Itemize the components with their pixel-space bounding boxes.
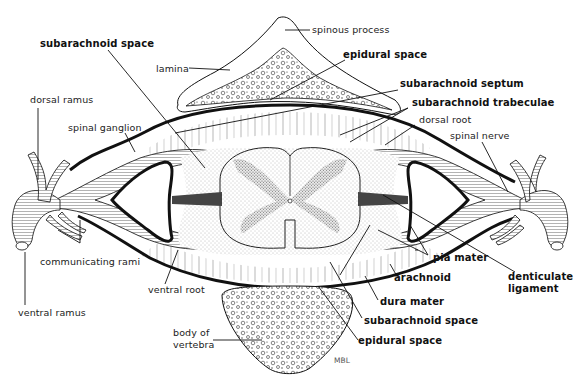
denticulate-ligament-right <box>358 192 408 206</box>
label-body-of-vertebra-line1: body of <box>173 327 209 338</box>
label-lamina: lamina <box>156 63 189 74</box>
label-spinal-ganglion: spinal ganglion <box>68 122 142 133</box>
label-epidural-space-bottom: epidural space <box>358 335 442 346</box>
label-subarachnoid-space-bottom: subarachnoid space <box>364 315 478 326</box>
label-subarachnoid-space-top: subarachnoid space <box>40 38 154 49</box>
label-subarachnoid-septum: subarachnoid septum <box>400 78 524 89</box>
label-dura-mater: dura mater <box>380 296 444 307</box>
label-dorsal-ramus: dorsal ramus <box>30 94 93 105</box>
label-pia-mater: pia mater <box>433 252 488 263</box>
label-arachnoid: arachnoid <box>394 272 451 283</box>
label-body-of-vertebra-line2: vertebra <box>173 339 215 350</box>
denticulate-ligament-left <box>172 192 222 206</box>
label-communicating-rami: communicating rami <box>40 256 140 267</box>
label-subarachnoid-trabeculae: subarachnoid trabeculae <box>412 97 554 108</box>
label-ventral-root: ventral root <box>148 284 205 295</box>
credit-mbl: MBL <box>334 355 350 366</box>
label-spinous-process: spinous process <box>312 24 389 35</box>
vertebral-body <box>222 286 353 374</box>
label-dorsal-root: dorsal root <box>419 114 471 125</box>
spinal-cord-diagram <box>0 0 580 384</box>
label-epidural-space-top: epidural space <box>343 49 427 60</box>
label-denticulate-ligament-line1: denticulate <box>508 271 573 282</box>
label-denticulate-ligament-line2: ligament <box>508 283 559 294</box>
label-ventral-ramus: ventral ramus <box>18 307 86 318</box>
label-spinal-nerve: spinal nerve <box>450 130 510 141</box>
